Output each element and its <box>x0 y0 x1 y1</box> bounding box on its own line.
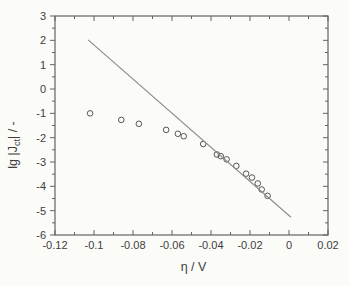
tafel-fit-line <box>88 40 291 217</box>
data-point <box>163 127 169 133</box>
x-tick-label: -0.02 <box>237 239 262 251</box>
y-tick-label: 2 <box>40 34 46 46</box>
y-tick-label: -4 <box>36 180 46 192</box>
data-point <box>255 181 261 187</box>
x-tick-label: -0.08 <box>120 239 145 251</box>
measured-points <box>87 111 270 199</box>
x-axis-ticks <box>55 16 328 235</box>
y-tick-label: 0 <box>40 83 46 95</box>
x-tick-label: -0.12 <box>42 239 67 251</box>
y-tick-label: -6 <box>36 229 46 241</box>
x-tick-label: 0 <box>286 239 292 251</box>
plot-frame <box>55 16 328 235</box>
x-tick-label: -0.1 <box>85 239 104 251</box>
y-tick-label: -2 <box>36 132 46 144</box>
y-tick-label: -5 <box>36 205 46 217</box>
y-tick-label: 3 <box>40 10 46 22</box>
chart-svg: -0.12-0.1-0.08-0.06-0.04-0.0200.023210-1… <box>0 0 349 286</box>
x-axis-title: η / V <box>181 260 207 274</box>
data-point <box>87 111 93 117</box>
x-tick-label: -0.06 <box>159 239 184 251</box>
data-point <box>119 117 125 123</box>
data-point <box>175 131 181 137</box>
y-tick-label: -3 <box>36 156 46 168</box>
y-tick-label: -1 <box>36 107 46 119</box>
y-axis-title: lg |Jct| / - <box>6 121 22 169</box>
data-point <box>249 175 255 181</box>
y-axis-ticks <box>50 16 328 235</box>
tafel-plot-figure: -0.12-0.1-0.08-0.06-0.04-0.0200.023210-1… <box>0 0 349 286</box>
y-tick-label: 1 <box>40 59 46 71</box>
data-point <box>181 133 187 139</box>
data-point <box>136 121 142 127</box>
x-tick-label: 0.02 <box>317 239 338 251</box>
x-tick-label: -0.04 <box>198 239 223 251</box>
